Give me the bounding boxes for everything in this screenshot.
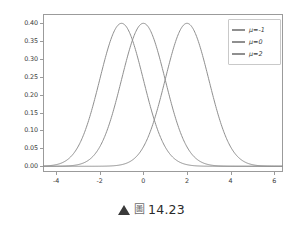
y-tick-label: 0.20 (24, 91, 38, 99)
x-tick-mark (143, 172, 144, 175)
legend-item: μ=2 (232, 48, 277, 60)
triangle-marker-icon (118, 205, 130, 215)
y-tick-label: 0.15 (24, 109, 38, 117)
y-axis-tick-labels: 0.000.050.100.150.200.250.300.350.40 (0, 14, 38, 172)
x-tick-mark (187, 172, 188, 175)
legend-line-swatch (232, 41, 245, 42)
figure-caption: 圖14.23 (0, 200, 303, 217)
x-axis-tick-labels: -4-20246 (43, 177, 283, 189)
legend-line-swatch (232, 29, 245, 30)
y-tick-label: 0.10 (24, 126, 38, 134)
x-tick-label: -4 (53, 177, 59, 185)
x-tick-label: 6 (272, 177, 276, 185)
figure-container: 0.000.050.100.150.200.250.300.350.40 -4-… (0, 0, 303, 231)
x-tick-label: 2 (185, 177, 189, 185)
figure-number: 14.23 (148, 202, 185, 217)
x-tick-mark (231, 172, 232, 175)
y-tick-label: 0.30 (24, 55, 38, 63)
legend-item: μ=-1 (232, 24, 277, 36)
legend-item-label: μ=0 (249, 38, 263, 46)
y-tick-label: 0.00 (24, 162, 38, 170)
x-tick-label: 0 (141, 177, 145, 185)
y-tick-label: 0.40 (24, 19, 38, 27)
legend-item-label: μ=-1 (249, 26, 265, 34)
y-tick-label: 0.35 (24, 37, 38, 45)
figure-glyph: 圖 (134, 203, 145, 216)
x-tick-mark (100, 172, 101, 175)
x-tick-mark (56, 172, 57, 175)
x-tick-label: 4 (229, 177, 233, 185)
legend-item: μ=0 (232, 36, 277, 48)
y-tick-label: 0.05 (24, 144, 38, 152)
chart-legend: μ=-1μ=0μ=2 (228, 19, 281, 65)
x-tick-label: -2 (97, 177, 103, 185)
x-axis-tick-marks (43, 172, 283, 175)
legend-item-label: μ=2 (249, 50, 263, 58)
legend-line-swatch (232, 53, 245, 54)
y-tick-label: 0.25 (24, 73, 38, 81)
x-tick-mark (274, 172, 275, 175)
